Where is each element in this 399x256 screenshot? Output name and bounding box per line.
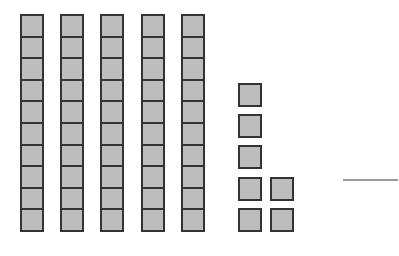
- tens-rod: [141, 14, 165, 232]
- unit-cube: [20, 144, 44, 166]
- unit-cube: [60, 79, 84, 101]
- unit-cube: [100, 144, 124, 166]
- unit-cube: [100, 100, 124, 122]
- unit-cube: [20, 36, 44, 58]
- unit-cube: [20, 187, 44, 209]
- unit-cube: [100, 122, 124, 144]
- unit-cube: [100, 57, 124, 79]
- unit-cube: [238, 208, 262, 232]
- unit-cube: [141, 144, 165, 166]
- unit-cube: [60, 144, 84, 166]
- unit-cube: [60, 208, 84, 232]
- unit-cube: [141, 122, 165, 144]
- unit-cube: [60, 36, 84, 58]
- unit-cube: [60, 14, 84, 36]
- unit-cube: [270, 208, 294, 232]
- tens-rod: [181, 14, 205, 232]
- unit-cube: [20, 100, 44, 122]
- unit-cube: [181, 144, 205, 166]
- unit-cube: [20, 79, 44, 101]
- unit-cube: [141, 100, 165, 122]
- unit-cube: [100, 165, 124, 187]
- tens-rod: [60, 14, 84, 232]
- unit-cube: [181, 165, 205, 187]
- unit-cube: [238, 177, 262, 201]
- unit-cube: [141, 208, 165, 232]
- unit-cube: [60, 165, 84, 187]
- unit-cube: [60, 57, 84, 79]
- tens-rod: [100, 14, 124, 232]
- unit-cube: [181, 122, 205, 144]
- unit-cube: [60, 100, 84, 122]
- unit-cube: [181, 79, 205, 101]
- unit-cube: [141, 79, 165, 101]
- unit-cube: [100, 208, 124, 232]
- unit-cube: [20, 165, 44, 187]
- unit-cube: [141, 14, 165, 36]
- unit-cube: [141, 187, 165, 209]
- unit-cube: [20, 208, 44, 232]
- unit-cube: [181, 187, 205, 209]
- unit-cube: [20, 122, 44, 144]
- unit-cube: [100, 79, 124, 101]
- tens-rod: [20, 14, 44, 232]
- unit-cube: [270, 177, 294, 201]
- unit-cube: [181, 14, 205, 36]
- unit-cube: [100, 187, 124, 209]
- unit-cube: [141, 57, 165, 79]
- unit-cube: [60, 187, 84, 209]
- unit-cube: [181, 57, 205, 79]
- unit-cube: [100, 36, 124, 58]
- unit-cube: [141, 165, 165, 187]
- unit-cube: [20, 57, 44, 79]
- unit-cube: [60, 122, 84, 144]
- unit-cube: [100, 14, 124, 36]
- unit-cube: [181, 208, 205, 232]
- unit-cube: [141, 36, 165, 58]
- unit-cube: [181, 100, 205, 122]
- unit-cube: [20, 14, 44, 36]
- answer-blank-line[interactable]: [343, 179, 398, 181]
- unit-cube: [238, 145, 262, 169]
- unit-cube: [238, 114, 262, 138]
- unit-cube: [238, 83, 262, 107]
- unit-cube: [181, 36, 205, 58]
